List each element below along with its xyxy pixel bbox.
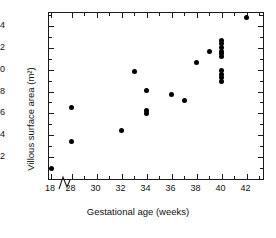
data-point: [69, 105, 74, 110]
y-tick-label: 6: [0, 108, 5, 117]
data-point: [219, 54, 224, 59]
axis-tick: [49, 102, 52, 103]
x-tick-label: 18: [45, 184, 55, 193]
axis-tick: [260, 168, 263, 169]
axis-tick: [258, 157, 263, 158]
axis-tick: [260, 146, 263, 147]
axis-tick: [84, 13, 85, 16]
data-point: [244, 15, 249, 20]
data-point: [182, 98, 187, 103]
axis-tick: [222, 174, 223, 179]
axis-tick: [258, 48, 263, 49]
axis-tick: [260, 81, 263, 82]
y-tick-label: 2: [0, 152, 5, 161]
axis-tick: [72, 13, 73, 18]
axis-tick: [147, 174, 148, 179]
axis-tick: [172, 174, 173, 179]
axis-tick: [49, 37, 52, 38]
axis-tick: [49, 146, 52, 147]
axis-tick: [109, 13, 110, 16]
axis-tick: [49, 70, 54, 71]
axis-tick: [49, 135, 54, 136]
axis-tick: [260, 59, 263, 60]
axis-tick: [49, 81, 52, 82]
data-point: [119, 128, 124, 133]
axis-tick: [97, 174, 98, 179]
y-tick-label: 4: [0, 130, 5, 139]
axis-break-icon: [56, 174, 74, 190]
plot-area: [48, 12, 264, 180]
axis-tick: [147, 13, 148, 18]
axis-tick: [260, 15, 263, 16]
axis-tick: [184, 176, 185, 179]
axis-tick: [134, 13, 135, 16]
axis-tick: [49, 157, 54, 158]
axis-tick: [49, 124, 52, 125]
data-point: [49, 166, 54, 171]
y-tick-label: 14: [0, 20, 5, 29]
axis-tick: [234, 13, 235, 16]
axis-tick: [258, 92, 263, 93]
data-point: [169, 92, 174, 97]
x-axis-title: Gestational age (weeks): [0, 206, 276, 217]
axis-tick: [247, 174, 248, 179]
axis-tick: [49, 26, 54, 27]
axis-tick: [234, 176, 235, 179]
axis-tick: [51, 13, 52, 18]
axis-tick: [222, 13, 223, 18]
data-point: [144, 88, 149, 93]
x-tick-label: 40: [215, 184, 225, 193]
axis-tick: [159, 13, 160, 16]
data-point: [144, 111, 149, 116]
axis-tick: [49, 92, 54, 93]
axis-tick: [122, 13, 123, 18]
x-tick-label: 32: [115, 184, 125, 193]
axis-tick: [258, 135, 263, 136]
axis-tick: [172, 13, 173, 18]
y-tick-label: 12: [0, 42, 5, 51]
axis-tick: [84, 176, 85, 179]
data-point: [69, 139, 74, 144]
axis-tick: [159, 176, 160, 179]
axis-tick: [97, 13, 98, 18]
data-point: [219, 79, 224, 84]
x-tick-label: 38: [190, 184, 200, 193]
axis-tick: [122, 174, 123, 179]
y-axis-title: Villous surface area (m²): [25, 35, 36, 203]
axis-tick: [49, 113, 54, 114]
axis-tick: [259, 13, 260, 16]
axis-tick: [260, 102, 263, 103]
axis-tick: [109, 176, 110, 179]
axis-tick: [260, 37, 263, 38]
axis-tick: [209, 13, 210, 16]
axis-tick: [184, 13, 185, 16]
axis-tick: [49, 59, 52, 60]
data-point: [132, 69, 137, 74]
scatter-plot-figure: 2468101214182830323436384042 Villous sur…: [0, 0, 276, 238]
axis-tick: [259, 176, 260, 179]
axis-tick: [258, 70, 263, 71]
axis-tick: [260, 124, 263, 125]
axis-tick: [258, 26, 263, 27]
axis-tick: [258, 113, 263, 114]
y-tick-label: 8: [0, 86, 5, 95]
axis-tick: [197, 174, 198, 179]
axis-tick: [134, 176, 135, 179]
data-point: [207, 49, 212, 54]
axis-tick: [197, 13, 198, 18]
y-tick-label: 10: [0, 64, 5, 73]
data-point: [194, 60, 199, 65]
axis-tick: [49, 48, 54, 49]
x-tick-label: 30: [90, 184, 100, 193]
axis-tick: [51, 174, 52, 179]
x-tick-label: 34: [140, 184, 150, 193]
axis-tick: [209, 176, 210, 179]
x-tick-label: 36: [165, 184, 175, 193]
x-tick-label: 42: [240, 184, 250, 193]
